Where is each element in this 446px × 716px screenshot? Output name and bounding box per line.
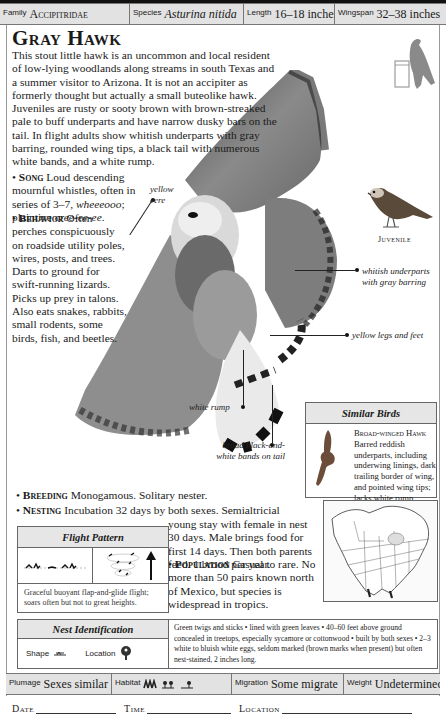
soaring-diagram (93, 548, 168, 583)
population-section: • Population Casual to rare. No more tha… (168, 558, 318, 611)
leader-line (272, 385, 273, 443)
species-label: Species (133, 8, 161, 17)
weight-cell: Weight Undetermined (344, 674, 440, 694)
breeding-text: Monogamous. Solitary nester. (68, 489, 208, 501)
nest-shape-label: Shape (26, 649, 49, 658)
taxonomy-bar: Family Accipitridae Species Asturina nit… (0, 3, 446, 25)
nesting-heading: Nesting (23, 504, 61, 516)
leader-line (295, 270, 355, 271)
annotation-legs: yellow legs and feet (352, 330, 442, 341)
family-cell: Family Accipitridae (0, 4, 130, 24)
page-border-right (439, 22, 440, 696)
plumage-label: Plumage (9, 678, 41, 687)
migration-value: Some migrate (271, 677, 338, 692)
intro-paragraph: This stout little hawk is an uncommon an… (12, 49, 277, 169)
flight-pattern-heading: Flight Pattern (18, 527, 168, 548)
similar-birds-heading: Similar Birds (306, 403, 436, 424)
time-label: Time (124, 703, 145, 714)
length-label: Length (247, 8, 271, 17)
nesting-section: • Nesting Incubation 32 days by both sex… (16, 504, 280, 516)
migration-label: Migration (235, 678, 268, 687)
habitat-cell: Habitat (112, 674, 232, 694)
population-heading: Population (175, 558, 230, 570)
song-heading: Song (19, 171, 44, 183)
song-call-1: wheeeooo (76, 198, 122, 210)
breeding-section: • Breeding Monogamous. Solitary nester. (16, 489, 207, 501)
wingspan-value: 32–38 inches (377, 7, 441, 22)
family-value: Accipitridae (30, 7, 88, 22)
field-info-bar: Plumage Sexes similar Habitat Migration … (6, 673, 440, 695)
time-field[interactable] (147, 704, 231, 714)
similar-bird-name: Broad-winged Hawk (354, 428, 426, 438)
species-cell: Species Asturina nitida (130, 4, 244, 24)
annotation-rump: white rump (189, 402, 239, 413)
location-field[interactable] (282, 704, 412, 714)
nest-identification-panel: Nest Identification Shape Location (18, 620, 169, 668)
location-label: Location (239, 703, 280, 714)
habitat-icons (143, 679, 197, 689)
breeding-heading: Breeding (23, 489, 68, 501)
similar-birds-box: Similar Birds Broad-winged Hawk Barred r… (305, 402, 437, 498)
broad-winged-hawk-icon (314, 428, 340, 488)
bullet: • (12, 171, 16, 183)
page-border-left (6, 22, 7, 696)
tree-location-icon (119, 645, 133, 661)
leader-dot (345, 333, 349, 337)
annotation-cere: yellow cere (150, 184, 190, 205)
flight-pattern-box: Flight Pattern Graceful buoyant flap-and… (17, 526, 169, 613)
leader-dot (270, 443, 274, 447)
flight-pattern-description: Graceful buoyant flap-and-glide flight; … (18, 584, 168, 612)
plumage-cell: Plumage Sexes similar (6, 674, 112, 694)
bullet: • (16, 504, 20, 516)
annotation-underparts: whitish underparts with gray barring (362, 266, 434, 287)
species-value: Asturina nitida (164, 7, 236, 22)
lakes-streams-icon (181, 681, 193, 688)
woodland-edge-icon (162, 681, 174, 688)
nest-icons-row: Shape Location (18, 639, 168, 667)
sighting-log: Date Time Location (12, 703, 418, 714)
leader-dot (241, 405, 245, 409)
habitat-label: Habitat (115, 678, 140, 687)
platform-nest-icon (53, 649, 67, 657)
flight-pattern-diagrams (18, 548, 168, 584)
wingspan-label: Wingspan (338, 8, 374, 17)
page-title: Gray Hawk (12, 26, 121, 51)
nesting-text-1: Incubation 32 days by both sexes. Semial… (61, 504, 279, 516)
length-value: 16–18 inches (274, 7, 335, 22)
nest-description: Green twigs and sticks • lined with gree… (169, 620, 437, 668)
nest-location-label: Location (85, 649, 115, 658)
date-field[interactable] (36, 704, 116, 714)
leader-line (243, 350, 244, 405)
juvenile-label: Juvenile (378, 235, 411, 244)
length-cell: Length 16–18 inches (244, 4, 335, 24)
wingspan-cell: Wingspan 32–38 inches (335, 4, 446, 24)
behavior-text: Often perches conspicuously on roadside … (12, 212, 127, 344)
date-label: Date (12, 703, 34, 714)
migration-cell: Migration Some migrate (232, 674, 344, 694)
flap-glide-diagram (18, 548, 93, 583)
soaring-spiral-icon (93, 548, 167, 583)
flap-glide-icon (18, 548, 92, 583)
forest-icon (144, 681, 156, 688)
juvenile-hawk-illustration (365, 183, 435, 233)
leader-line (270, 335, 345, 336)
nest-identification-box: Nest Identification Shape Location Green… (17, 619, 438, 669)
nest-identification-heading: Nest Identification (18, 620, 168, 639)
family-label: Family (3, 8, 27, 17)
behavior-section: • Behavior Often perches conspicuously o… (12, 212, 127, 345)
similar-bird-item: Broad-winged Hawk Barred reddish underpa… (306, 424, 436, 497)
plumage-value: Sexes similar (44, 677, 108, 692)
bullet: • (12, 212, 16, 224)
leader-dot (355, 268, 359, 272)
bullet: • (16, 489, 20, 501)
weight-label: Weight (347, 678, 372, 687)
behavior-heading: Behavior (19, 212, 64, 224)
weight-value: Undetermined (375, 677, 440, 692)
hawk-silhouette-icon (393, 33, 441, 95)
range-map (323, 500, 438, 602)
